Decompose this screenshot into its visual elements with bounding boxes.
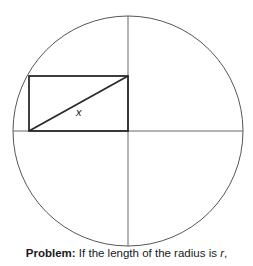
problem-text: If the length of the radius is — [76, 247, 220, 259]
problem-caption: Problem: If the length of the radius is … — [0, 247, 253, 259]
rectangle-diagonal — [29, 76, 128, 131]
problem-heading: Problem: — [26, 247, 76, 259]
caption-trailing: , — [224, 247, 227, 259]
geometry-diagram: x — [0, 0, 253, 266]
diagonal-label: x — [75, 106, 82, 118]
